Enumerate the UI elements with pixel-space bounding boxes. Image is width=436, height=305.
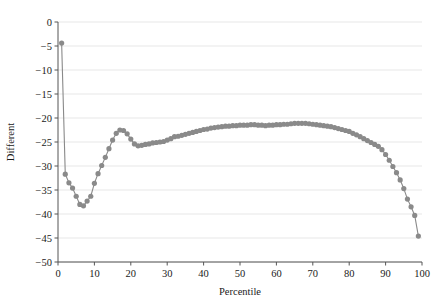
data-point — [128, 137, 133, 142]
data-point — [103, 155, 108, 160]
data-point — [416, 233, 421, 238]
data-point — [70, 185, 75, 190]
x-tick-label-9: 90 — [380, 268, 391, 279]
data-point — [59, 41, 64, 46]
y-tick-label-4: −20 — [36, 113, 52, 124]
x-tick-label-2: 20 — [126, 268, 137, 279]
data-point — [106, 146, 111, 151]
x-tick-label-1: 10 — [89, 268, 100, 279]
x-tick-label-10: 100 — [414, 268, 430, 279]
data-point — [394, 170, 399, 175]
data-point — [125, 131, 130, 136]
data-point — [92, 181, 97, 186]
x-tick-label-6: 60 — [271, 268, 282, 279]
x-axis-title: Percentile — [219, 286, 261, 297]
y-tick-label-10: −50 — [36, 257, 52, 268]
y-tick-label-9: −45 — [36, 233, 52, 244]
data-point — [99, 163, 104, 168]
data-point — [63, 172, 68, 177]
x-tick-label-3: 30 — [162, 268, 173, 279]
data-point — [408, 204, 413, 209]
line-chart: 0−5−10−15−20−25−30−35−40−45−50 010203040… — [0, 0, 436, 305]
x-tick-label-4: 40 — [198, 268, 209, 279]
y-axis-title: Different — [5, 123, 16, 161]
y-tick-label-0: 0 — [47, 17, 52, 28]
data-point — [81, 203, 86, 208]
data-point — [412, 213, 417, 218]
x-tick-label-7: 70 — [308, 268, 319, 279]
y-tick-label-2: −10 — [36, 65, 52, 76]
y-tick-label-6: −30 — [36, 161, 52, 172]
y-tick-label-1: −5 — [41, 41, 52, 52]
data-point — [74, 194, 79, 199]
data-point — [405, 197, 410, 202]
x-tick-label-8: 80 — [344, 268, 355, 279]
chart-figure: 0−5−10−15−20−25−30−35−40−45−50 010203040… — [0, 0, 436, 305]
y-tick-label-3: −15 — [36, 89, 52, 100]
data-point — [398, 177, 403, 182]
y-tick-label-7: −35 — [36, 185, 52, 196]
data-point — [387, 158, 392, 163]
data-point — [383, 152, 388, 157]
data-point — [379, 147, 384, 152]
data-point — [85, 198, 90, 203]
data-point — [390, 164, 395, 169]
y-tick-label-5: −25 — [36, 137, 52, 148]
y-tick-label-8: −40 — [36, 209, 52, 220]
data-point — [66, 180, 71, 185]
data-point — [401, 186, 406, 191]
x-tick-label-0: 0 — [55, 268, 60, 279]
data-point — [88, 194, 93, 199]
x-tick-label-5: 50 — [235, 268, 246, 279]
data-point — [110, 137, 115, 142]
data-point — [95, 171, 100, 176]
